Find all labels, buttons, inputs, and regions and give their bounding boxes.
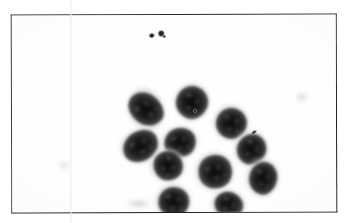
page-canvas [0,0,347,223]
debris-3 [162,35,165,38]
slide-background-field [12,14,337,212]
microscopy-photo-frame [11,13,338,213]
debris-5 [193,109,197,113]
